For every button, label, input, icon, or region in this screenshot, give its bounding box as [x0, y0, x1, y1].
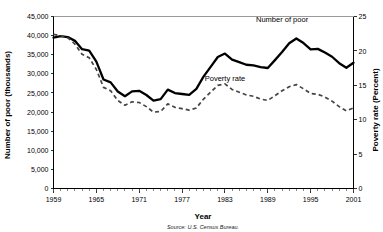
series-line-number-of-poor: [54, 36, 354, 101]
y-left-tick-label: 45,000: [27, 13, 49, 20]
x-tick-label: 1965: [89, 196, 105, 203]
y-axis-left-ticks: 05,00010,00015,00020,00025,00030,00035,0…: [27, 13, 53, 192]
x-tick-label: 1977: [174, 196, 190, 203]
y-axis-left-title: Number of poor (thousands): [3, 51, 12, 159]
series-label-poverty-rate: Poverty rate: [205, 74, 245, 83]
poverty-chart: 05,00010,00015,00020,00025,00030,00035,0…: [0, 0, 383, 232]
y-right-tick-label: 0: [359, 185, 363, 192]
source-note: Source: U.S. Census Bureau.: [167, 224, 239, 230]
x-axis-title: Year: [195, 212, 212, 221]
y-left-tick-label: 15,000: [27, 128, 49, 135]
chart-svg: 05,00010,00015,00020,00025,00030,00035,0…: [0, 0, 383, 232]
y-left-tick-label: 20,000: [27, 109, 49, 116]
y-left-tick-label: 0: [45, 185, 49, 192]
y-right-tick-label: 5: [359, 151, 363, 158]
y-left-tick-label: 5,000: [31, 166, 49, 173]
y-axis-right-title: Poverty rate (Percent): [371, 68, 380, 151]
series-label-number-of-poor: Number of poor: [256, 15, 309, 24]
y-right-tick-label: 25: [359, 13, 367, 20]
x-tick-label: 1989: [260, 196, 276, 203]
y-right-tick-label: 15: [359, 82, 367, 89]
x-tick-label: 2001: [346, 196, 362, 203]
x-tick-label: 1995: [303, 196, 319, 203]
plot-frame: [54, 17, 354, 189]
y-right-tick-label: 20: [359, 48, 367, 55]
x-tick-label: 1959: [46, 196, 62, 203]
y-left-tick-label: 25,000: [27, 90, 49, 97]
y-left-tick-label: 10,000: [27, 147, 49, 154]
y-axis-right-ticks: 0510152025: [354, 13, 367, 192]
y-left-tick-label: 35,000: [27, 51, 49, 58]
series-lines: [54, 34, 354, 112]
x-tick-label: 1971: [131, 196, 147, 203]
y-left-tick-label: 40,000: [27, 32, 49, 39]
y-right-tick-label: 10: [359, 116, 367, 123]
y-left-tick-label: 30,000: [27, 70, 49, 77]
x-tick-label: 1983: [217, 196, 233, 203]
